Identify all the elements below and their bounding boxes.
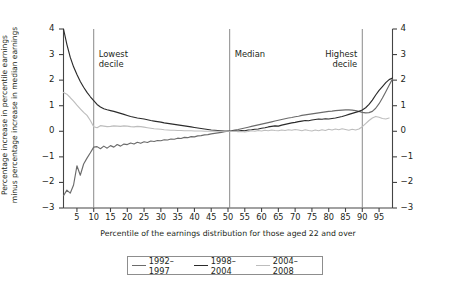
y-tick-label-left: 0 <box>41 125 55 135</box>
x-tick-label: 50 <box>220 212 236 222</box>
legend-label: 2004–2008 <box>273 256 318 276</box>
y-tick-label-right: 0 <box>401 125 415 135</box>
legend-item-1998–2004[interactable]: 1998–2004 <box>194 256 256 276</box>
x-tick-label: 65 <box>270 212 286 222</box>
y-tick-label-left: −1 <box>41 151 55 161</box>
annotation-highest: Highestdecile <box>300 49 357 70</box>
x-tick-label: 30 <box>153 212 169 222</box>
x-tick-label: 90 <box>354 212 370 222</box>
y-tick-label-right: 2 <box>401 74 415 84</box>
x-tick-label: 75 <box>304 212 320 222</box>
x-tick-label: 5 <box>69 212 85 222</box>
annotation-lowest: Lowestdecile <box>99 49 128 70</box>
annotation-line1: Highest <box>300 49 357 59</box>
legend-label: 1992–1997 <box>149 256 194 276</box>
series-line-1998–2004 <box>64 29 393 131</box>
legend-swatch-icon <box>256 265 270 266</box>
legend-item-2004–2008[interactable]: 2004–2008 <box>256 256 318 276</box>
x-axis-label: Percentile of the earnings distribution … <box>63 229 393 238</box>
x-tick-label: 25 <box>136 212 152 222</box>
y-tick-label-left: 4 <box>41 23 55 33</box>
y-tick-label-left: 1 <box>41 100 55 110</box>
y-tick-label-right: −2 <box>401 176 415 186</box>
annotation-line1: Lowest <box>99 49 128 59</box>
legend-swatch-icon <box>194 265 208 266</box>
y-tick-label-left: 2 <box>41 74 55 84</box>
chart-legend: 1992–19971998–20042004–2008 <box>127 256 323 275</box>
x-tick-label: 20 <box>119 212 135 222</box>
annotation-median: Median <box>235 49 265 59</box>
x-tick-label: 35 <box>170 212 186 222</box>
x-tick-label: 40 <box>186 212 202 222</box>
y-tick-label-left: 3 <box>41 49 55 59</box>
y-tick-label-right: −3 <box>401 202 415 212</box>
series-line-1992–1997 <box>64 79 393 196</box>
x-tick-label: 55 <box>237 212 253 222</box>
y-tick-label-right: −1 <box>401 151 415 161</box>
x-tick-label: 85 <box>338 212 354 222</box>
series-line-2004–2008 <box>64 92 390 132</box>
y-tick-label-right: 3 <box>401 49 415 59</box>
x-tick-label: 45 <box>203 212 219 222</box>
annotation-line2: decile <box>300 59 357 69</box>
x-tick-label: 70 <box>287 212 303 222</box>
plot-area <box>0 0 450 285</box>
x-tick-label: 80 <box>321 212 337 222</box>
annotation-line2: decile <box>99 59 128 69</box>
y-tick-label-right: 4 <box>401 23 415 33</box>
y-tick-label-left: −2 <box>41 176 55 186</box>
x-tick-label: 15 <box>103 212 119 222</box>
y-tick-label-left: −3 <box>41 202 55 212</box>
x-tick-label: 10 <box>86 212 102 222</box>
y-tick-label-right: 1 <box>401 100 415 110</box>
x-tick-label: 60 <box>254 212 270 222</box>
x-tick-label: 95 <box>371 212 387 222</box>
legend-item-1992–1997[interactable]: 1992–1997 <box>132 256 194 276</box>
legend-swatch-icon <box>132 265 146 266</box>
legend-label: 1998–2004 <box>211 256 256 276</box>
annotation-line1: Median <box>235 49 265 59</box>
chart-figure: Percentage increase in percentile earnin… <box>0 0 450 285</box>
